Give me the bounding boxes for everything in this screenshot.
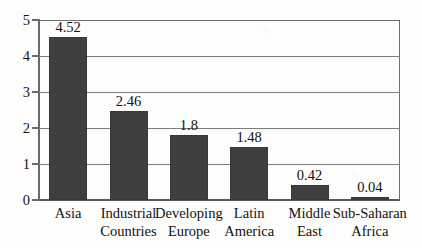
bar-industrial-countries <box>110 111 148 200</box>
y-axis-tick-label-3: 3 <box>4 85 30 100</box>
bar-middle-east <box>291 185 329 200</box>
bars-group <box>38 20 400 200</box>
value-label-middle-east: 0.42 <box>280 168 340 183</box>
y-axis-tick-label-1: 1 <box>4 157 30 172</box>
bar-developing-europe <box>170 135 208 200</box>
x-axis-label-sub-saharan-africa: Sub-SaharanAfrica <box>331 205 409 240</box>
x-axis-category-labels-group: AsiaIndustrialCountriesDevelopingEuropeL… <box>0 205 422 248</box>
y-axis-tick-label-2: 2 <box>4 121 30 136</box>
y-axis-tick-label-4: 4 <box>4 49 30 64</box>
x-axis-label-line: Sub-Saharan <box>331 205 409 223</box>
bar-asia <box>49 37 87 200</box>
bar-sub-saharan-africa <box>351 197 389 200</box>
x-axis-label-line: Africa <box>331 223 409 241</box>
value-label-industrial-countries: 2.46 <box>99 94 159 109</box>
bar-chart-figure: 012345 4.522.461.81.480.420.04 AsiaIndus… <box>0 0 422 248</box>
value-label-sub-saharan-africa: 0.04 <box>340 180 400 195</box>
bar-latin-america <box>230 147 268 200</box>
value-label-asia: 4.52 <box>38 20 98 35</box>
y-axis-tick-label-5: 5 <box>4 13 30 28</box>
value-label-latin-america: 1.48 <box>219 130 279 145</box>
value-label-developing-europe: 1.8 <box>159 118 219 133</box>
